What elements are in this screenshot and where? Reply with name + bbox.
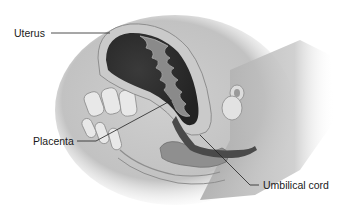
anatomy-illustration: Uterus Placenta Umbilical cord: [0, 0, 344, 210]
uterus-label: Uterus: [14, 28, 45, 39]
placenta-label: Placenta: [33, 136, 74, 147]
umbilical-cord-label: Umbilical cord: [263, 180, 329, 191]
